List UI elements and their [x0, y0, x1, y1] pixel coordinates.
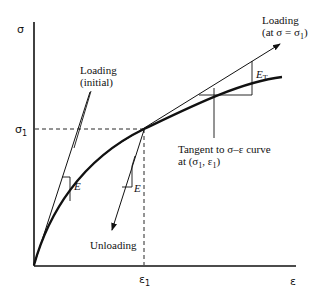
initial-loading-pointer — [74, 91, 91, 148]
y-axis-label: σ — [17, 23, 24, 36]
modulus-initial-label: E — [73, 180, 81, 192]
epsilon1-tick-label: ε1 — [139, 273, 150, 288]
tangent-label: Tangent to σ–ε curve at (σ1, ε1) — [178, 143, 273, 170]
tangent-loading-line — [120, 44, 280, 143]
x-axis-label: ε — [290, 275, 296, 288]
loading-initial-label: Loading (initial) — [80, 64, 119, 89]
stress-strain-curve — [34, 77, 282, 265]
sigma1-tick-label: σ1 — [15, 123, 27, 138]
initial-loading-line — [34, 92, 90, 265]
unloading-label: Unloading — [90, 239, 137, 251]
modulus-unloading-label: E — [133, 182, 141, 194]
stress-strain-diagram: σ ε σ1 ε1 Loading (initial) Loading (at … — [0, 0, 322, 296]
loading-at-sigma1-label: Loading (at σ = σ1) — [262, 14, 308, 41]
